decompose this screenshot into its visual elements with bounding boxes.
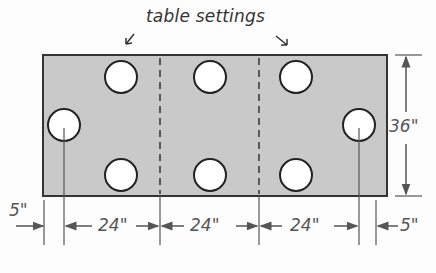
title-arrow-left-icon xyxy=(126,34,134,44)
dimension-left-end: 5" xyxy=(9,200,28,220)
place-setting-top-3 xyxy=(280,61,312,93)
place-setting-top-2 xyxy=(194,61,226,93)
dimension-section-3: 24" xyxy=(290,215,319,235)
dimension-section-2: 24" xyxy=(190,215,219,235)
title-arrow-right-icon xyxy=(276,36,287,45)
place-setting-bottom-3 xyxy=(280,159,312,191)
dimension-section-1: 24" xyxy=(98,215,127,235)
place-setting-bottom-1 xyxy=(105,159,137,191)
dimension-right-end: 5" xyxy=(400,215,419,235)
place-setting-bottom-2 xyxy=(194,159,226,191)
dimension-height: 36" xyxy=(389,116,418,136)
place-setting-top-1 xyxy=(105,61,137,93)
